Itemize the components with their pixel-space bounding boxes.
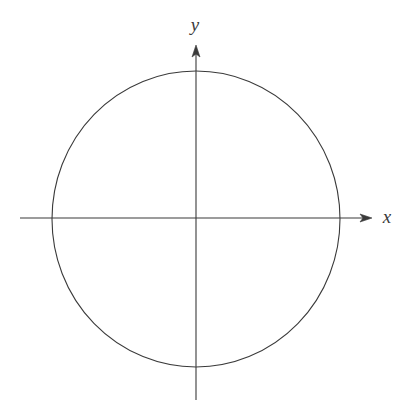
figure-background [0, 0, 412, 418]
y-axis-label: y [189, 14, 200, 35]
x-axis-label: x [382, 206, 392, 227]
coordinate-plane-figure: y x [0, 0, 412, 418]
figure-container: y x [0, 0, 412, 418]
